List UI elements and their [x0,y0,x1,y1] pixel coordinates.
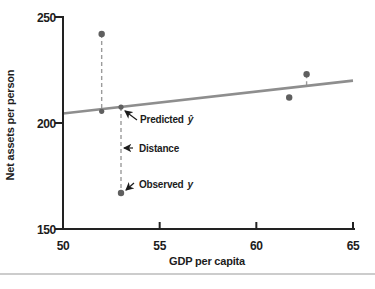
observed-data-point [303,71,309,77]
observed-arrow-icon [126,183,134,190]
annotation-distance: Distance [124,143,180,154]
observed-data-point [118,190,124,196]
observed-label: Observedy [139,179,194,190]
scatter-plot-figure: 50556065150200250 GDP per capita Net ass… [0,0,375,289]
distance-label: Distance [139,143,180,154]
predicted-arrow-icon [125,111,137,120]
y-tick-label: 150 [37,223,57,237]
regression-line [63,81,353,114]
y-tick-label: 250 [37,11,57,25]
fitted-point-on-line [99,109,104,114]
y-axis-title: Net assets per person [4,69,16,180]
x-tick-label: 65 [347,239,360,253]
chart-panel: 50556065150200250 GDP per capita Net ass… [0,0,375,289]
x-tick-label: 50 [57,239,70,253]
y-tick-label: 200 [37,117,57,131]
fitted-point-on-line [118,105,123,110]
annotation-predicted: Predictedŷ [125,111,194,125]
x-tick-label: 55 [153,239,166,253]
x-tick-label: 60 [250,239,263,253]
plot-area: 50556065150200250 [37,11,360,254]
annotation-observed: Observedy [126,179,194,190]
x-axis-title: GDP per capita [169,255,246,267]
observed-data-point [286,94,292,100]
predicted-label: Predictedŷ [140,114,194,125]
observed-data-point [98,31,104,37]
